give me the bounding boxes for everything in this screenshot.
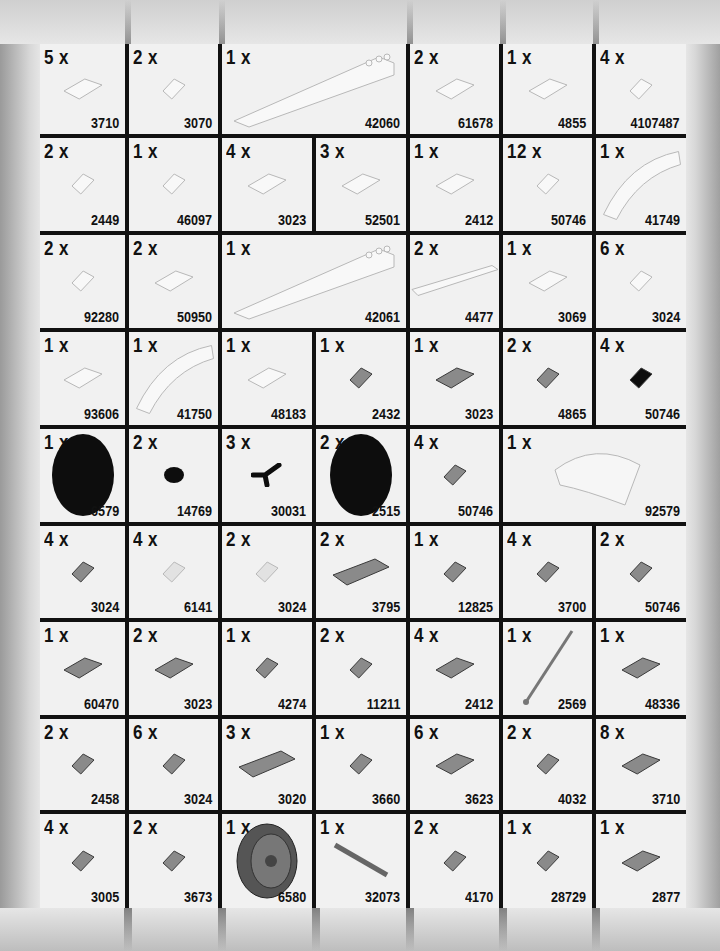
tile-clip-icon (442, 560, 468, 588)
parts-row: 2 x24491 x460974 x30233 x525011 x241212 … (40, 138, 686, 235)
plate-1x2-icon (434, 366, 476, 394)
part-number: 32073 (365, 889, 400, 905)
part-number: 3023 (465, 406, 493, 422)
part-cell-3795: 2 x3795 (316, 526, 410, 618)
part-quantity: 1 x (600, 816, 625, 839)
part-number: 3024 (91, 599, 119, 615)
part-number: 41749 (645, 212, 680, 228)
parts-grid: 5 x37102 x30701 x420602 x616781 x48554 x… (40, 44, 686, 908)
plate-1x1-icon (161, 752, 187, 780)
part-quantity: 6 x (414, 721, 439, 744)
part-quantity: 5 x (44, 46, 69, 69)
panel-icon (535, 366, 561, 394)
binding-seam (125, 0, 131, 44)
part-cell-41749: 1 x41749 (596, 138, 686, 231)
part-cell-6580: 1 x6580 (222, 814, 316, 908)
part-cell-3020: 3 x3020 (222, 719, 316, 810)
part-quantity: 2 x (133, 237, 158, 260)
plate-1x4-icon (62, 77, 104, 105)
part-number: 3005 (91, 889, 119, 905)
part-quantity: 2 x (133, 624, 158, 647)
part-cell-2458: 2 x2458 (40, 719, 129, 810)
part-number: 2569 (558, 696, 586, 712)
part-number: 61678 (458, 115, 493, 131)
brick-studs-side-icon (348, 656, 374, 684)
part-number: 28729 (551, 889, 586, 905)
part-number: 50950 (177, 309, 212, 325)
plate-1x2-icon (246, 172, 288, 200)
curved-slope-icon (62, 366, 104, 394)
part-quantity: 3 x (226, 721, 251, 744)
part-quantity: 4 x (414, 431, 439, 454)
part-number: 4477 (465, 309, 493, 325)
part-number: 14769 (177, 503, 212, 519)
binding-seam (407, 0, 413, 44)
plate-round-icon (161, 560, 187, 588)
part-number: 3795 (372, 599, 400, 615)
part-number: 6141 (184, 599, 212, 615)
part-cell-48183: 1 x48183 (222, 332, 316, 425)
part-cell-93606: 1 x93606 (40, 332, 129, 425)
part-cell-2877: 1 x2877 (596, 814, 686, 908)
part-quantity: 4 x (414, 624, 439, 647)
part-number: 4107487 (631, 115, 680, 131)
part-number: 42060 (365, 115, 400, 131)
part-quantity: 2 x (507, 334, 532, 357)
part-cell-42061: 1 x42061 (222, 235, 410, 328)
brick-pin-icon (70, 752, 96, 780)
part-quantity: 1 x (507, 816, 532, 839)
part-quantity: 1 x (226, 334, 251, 357)
binding-seam (593, 0, 599, 44)
part-number: 6579 (91, 503, 119, 519)
part-quantity: 2 x (133, 816, 158, 839)
part-quantity: 1 x (507, 237, 532, 260)
part-quantity: 4 x (226, 140, 251, 163)
part-number: 3710 (91, 115, 119, 131)
part-cell-61678: 2 x61678 (410, 44, 503, 134)
plate-round-2x2-icon (535, 752, 561, 780)
tile-round-icon (163, 466, 185, 488)
plate-1x1-icon (628, 269, 654, 297)
part-number: 3024 (184, 791, 212, 807)
slope-inverted-plate-icon (340, 172, 382, 200)
parts-row: 1 x936061 x417501 x481831 x24321 x30232 … (40, 332, 686, 429)
part-number: 3070 (184, 115, 212, 131)
part-cell-32073: 1 x32073 (316, 814, 410, 908)
part-cell-3024: 2 x3024 (222, 526, 316, 618)
part-number: 48336 (645, 696, 680, 712)
part-number: 3623 (465, 791, 493, 807)
parts-row: 2 x24586 x30243 x30201 x36606 x36232 x40… (40, 719, 686, 814)
slope-inverted-icon (348, 752, 374, 780)
brick-1x1-icon (70, 849, 96, 877)
part-quantity: 6 x (600, 237, 625, 260)
part-quantity: 1 x (133, 140, 158, 163)
part-cell-4107487: 4 x4107487 (596, 44, 686, 134)
part-quantity: 12 x (507, 140, 542, 163)
part-cell-6141: 4 x6141 (129, 526, 222, 618)
plate-1x4-icon (620, 752, 662, 780)
technic-pin-icon (254, 656, 280, 684)
part-quantity: 1 x (414, 140, 439, 163)
part-number: 2515 (372, 503, 400, 519)
part-quantity: 2 x (414, 46, 439, 69)
part-number: 50746 (551, 212, 586, 228)
part-cell-92280: 2 x92280 (40, 235, 129, 328)
part-number: 92280 (84, 309, 119, 325)
parts-row: 1 x65792 x147693 x300312 x25154 x507461 … (40, 429, 686, 526)
part-cell-4865: 2 x4865 (503, 332, 596, 425)
part-quantity: 2 x (133, 46, 158, 69)
part-quantity: 1 x (44, 624, 69, 647)
part-cell-3023: 2 x3023 (129, 622, 222, 715)
part-cell-3005: 4 x3005 (40, 814, 129, 908)
part-cell-4477: 2 x4477 (410, 235, 503, 328)
part-number: 2412 (465, 696, 493, 712)
part-number: 3023 (184, 696, 212, 712)
part-number: 4865 (558, 406, 586, 422)
top-margin-shadow (0, 0, 720, 44)
part-cell-4274: 1 x4274 (222, 622, 316, 715)
part-number: 60470 (84, 696, 119, 712)
plate-1x1-icon (70, 560, 96, 588)
part-cell-3070: 2 x3070 (129, 44, 222, 134)
part-cell-3023: 1 x3023 (410, 332, 503, 425)
handlebars-icon (251, 463, 283, 491)
